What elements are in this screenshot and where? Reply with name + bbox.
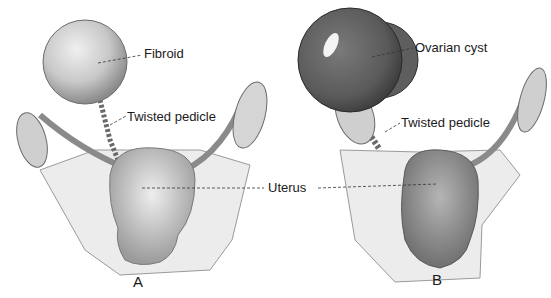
panel-label-a: A <box>133 274 143 289</box>
ovarian-cyst <box>298 8 402 112</box>
label-fibroid: Fibroid <box>144 47 184 60</box>
label-twisted-pedicle-a: Twisted pedicle <box>127 110 216 123</box>
panel-a-drawing <box>11 20 273 275</box>
label-twisted-pedicle-b: Twisted pedicle <box>401 116 490 129</box>
fibroid <box>43 20 127 104</box>
panel-label-b: B <box>432 272 442 287</box>
label-ovarian-cyst: Ovarian cyst <box>415 41 487 54</box>
ovary-right-b <box>512 65 551 135</box>
label-uterus: Uterus <box>268 181 306 194</box>
